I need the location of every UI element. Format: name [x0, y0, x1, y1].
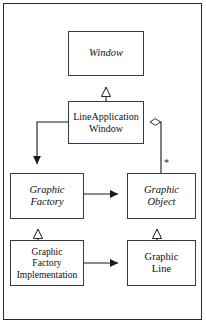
class-label-window: Window [86, 47, 126, 59]
multiplicity-label-star: * [164, 158, 169, 168]
class-box-graphic-object[interactable]: Graphic Object [127, 173, 196, 219]
class-label-line-application-window: LineApplication Window [70, 111, 142, 135]
class-box-graphic-line[interactable]: Graphic Line [127, 240, 196, 286]
edge-lineappwin-to-gfactory [37, 122, 68, 164]
class-label-graphic-object: Graphic Object [141, 184, 182, 209]
class-box-window[interactable]: Window [68, 31, 144, 76]
diagram-canvas: GraphicFactory (elbow left then down, so… [0, 0, 206, 330]
edge-lineappwin-aggregates-gobject [150, 122, 161, 173]
class-box-line-application-window[interactable]: LineApplication Window [68, 101, 144, 144]
class-box-graphic-factory[interactable]: Graphic Factory [10, 173, 84, 219]
class-label-graphic-line: Graphic Line [142, 251, 182, 276]
class-label-graphic-factory-implementation: Graphic Factory Implementation [14, 246, 81, 280]
class-label-graphic-factory: Graphic Factory [27, 184, 68, 209]
class-box-graphic-factory-implementation[interactable]: Graphic Factory Implementation [10, 240, 84, 286]
